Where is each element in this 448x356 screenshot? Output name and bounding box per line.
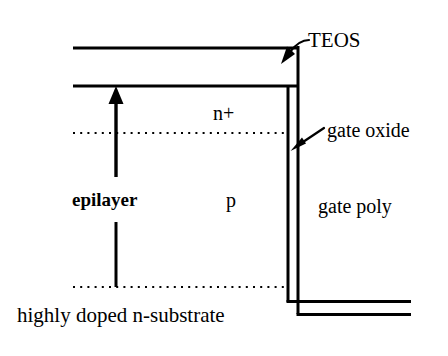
label-gate-poly: gate poly [318, 196, 392, 216]
label-gate-oxide: gate oxide [327, 120, 410, 140]
label-substrate: highly doped n-substrate [17, 305, 225, 326]
label-epilayer: epilayer [72, 190, 137, 209]
label-teos: TEOS [308, 30, 361, 51]
gate-oxide-callout-leader [303, 128, 324, 142]
epilayer-arrow-upper-head [109, 86, 124, 104]
diagram-canvas: TEOS gate oxide gate poly n+ p epilayer … [0, 0, 448, 356]
label-p-region: p [226, 190, 236, 210]
label-n-plus-region: n+ [213, 103, 234, 123]
